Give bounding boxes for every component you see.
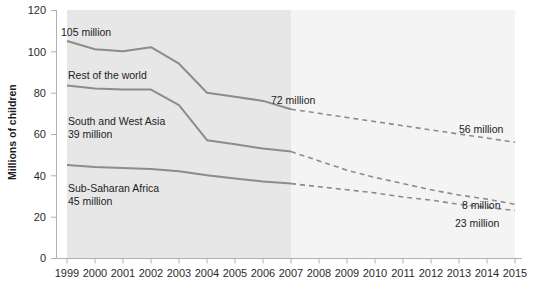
annotation-end-swasia: 8 million — [462, 199, 501, 211]
x-axis-ticks — [67, 259, 515, 264]
y-tick-80: 80 — [34, 87, 46, 99]
band-value-sub-saharan-africa: 45 million — [68, 195, 113, 207]
x-tick-2009: 2009 — [335, 267, 359, 279]
y-tick-60: 60 — [34, 128, 46, 140]
y-axis-tick-labels: 0 20 40 60 80 100 120 — [28, 4, 46, 264]
x-tick-2000: 2000 — [83, 267, 107, 279]
annotation-end-africa: 23 million — [455, 217, 500, 229]
x-tick-2003: 2003 — [167, 267, 191, 279]
chart-container: 0 20 40 60 80 100 120 Millions of childr… — [0, 0, 534, 289]
x-tick-2001: 2001 — [111, 267, 135, 279]
y-tick-100: 100 — [28, 46, 46, 58]
x-tick-2014: 2014 — [475, 267, 499, 279]
x-tick-2004: 2004 — [195, 267, 219, 279]
x-tick-2007: 2007 — [279, 267, 303, 279]
y-tick-0: 0 — [40, 252, 46, 264]
stacked-area-chart: 0 20 40 60 80 100 120 Millions of childr… — [0, 0, 534, 289]
x-tick-2002: 2002 — [139, 267, 163, 279]
annotation-mid-total: 72 million — [271, 94, 316, 106]
x-tick-2005: 2005 — [223, 267, 247, 279]
annotation-start-total: 105 million — [61, 26, 111, 38]
y-tick-120: 120 — [28, 4, 46, 16]
band-label-south-and-west-asia: South and West Asia — [68, 115, 165, 127]
x-tick-2008: 2008 — [307, 267, 331, 279]
y-tick-20: 20 — [34, 211, 46, 223]
annotation-end-total: 56 million — [459, 123, 504, 135]
x-tick-1999: 1999 — [55, 267, 79, 279]
band-label-rest-of-the-world: Rest of the world — [68, 69, 147, 81]
x-tick-2010: 2010 — [363, 267, 387, 279]
y-axis-ticks — [51, 11, 57, 259]
band-value-south-and-west-asia: 39 million — [68, 128, 113, 140]
band-label-sub-saharan-africa: Sub-Saharan Africa — [68, 182, 159, 194]
x-tick-2013: 2013 — [447, 267, 471, 279]
x-tick-2011: 2011 — [391, 267, 415, 279]
y-tick-40: 40 — [34, 170, 46, 182]
x-axis-tick-labels: 1999 2000 2001 2002 2003 2004 2005 2006 … — [55, 267, 527, 279]
y-axis-title: Millions of children — [6, 84, 18, 180]
x-tick-2006: 2006 — [251, 267, 275, 279]
x-tick-2015: 2015 — [503, 267, 527, 279]
x-tick-2012: 2012 — [419, 267, 443, 279]
